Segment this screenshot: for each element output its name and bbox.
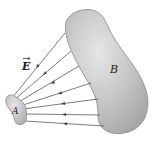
field-label: E [21, 60, 31, 73]
field-arrowheads [35, 64, 67, 126]
field-line [23, 99, 98, 109]
arrowhead-icon [63, 122, 67, 125]
conductor-b-label: B [109, 63, 118, 76]
field-diagram: E B A [0, 0, 154, 142]
arrowhead-icon [62, 113, 66, 116]
conductor-a-label: A [11, 106, 19, 116]
